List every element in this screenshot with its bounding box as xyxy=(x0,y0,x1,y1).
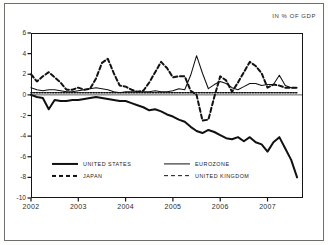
legend-item-japan[interactable]: JAPAN xyxy=(52,172,102,179)
y-tick-label: 2 xyxy=(6,70,26,77)
legend-label: UNITED KINGDOM xyxy=(195,173,249,179)
chart-page: IN % OF GDP 6420-2-4-6-8-10 200220032004… xyxy=(0,0,328,245)
x-tick-label: 2005 xyxy=(156,203,190,210)
legend-label: UNITED STATES xyxy=(83,161,131,167)
chart-legend: UNITED STATES EUROZONE JAPAN UNITED KING… xyxy=(52,160,262,184)
legend-item-united-states[interactable]: UNITED STATES xyxy=(52,160,131,167)
series-line-japan xyxy=(31,59,297,121)
y-tick-label: -4 xyxy=(6,132,26,139)
legend-label: EUROZONE xyxy=(195,161,230,167)
y-tick-label: -2 xyxy=(6,112,26,119)
y-tick-label: -8 xyxy=(6,173,26,180)
y-tick-label: -10 xyxy=(6,194,26,201)
x-tick-label: 2003 xyxy=(61,203,95,210)
x-tick-label: 2002 xyxy=(14,203,48,210)
legend-swatch-solid-thin xyxy=(164,160,190,167)
x-tick-label: 2007 xyxy=(251,203,285,210)
y-tick-label: 4 xyxy=(6,50,26,57)
y-tick-label: -6 xyxy=(6,153,26,160)
y-tick-label: 0 xyxy=(6,91,26,98)
legend-item-united-kingdom[interactable]: UNITED KINGDOM xyxy=(164,172,249,179)
y-tick-label: 6 xyxy=(6,29,26,36)
legend-swatch-dashed-thick xyxy=(52,172,78,179)
x-tick-label: 2004 xyxy=(109,203,143,210)
legend-swatch-solid-thick xyxy=(52,160,78,167)
series-line-eurozone xyxy=(31,56,297,93)
legend-label: JAPAN xyxy=(83,173,102,179)
legend-swatch-dashed-thin xyxy=(164,172,190,179)
legend-item-eurozone[interactable]: EUROZONE xyxy=(164,160,230,167)
x-tick-label: 2006 xyxy=(203,203,237,210)
